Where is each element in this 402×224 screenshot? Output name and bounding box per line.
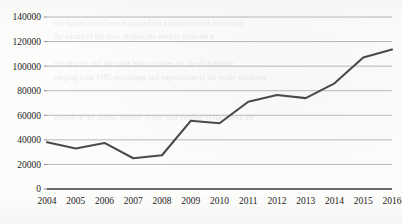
gridlines-group [47,17,392,164]
y-axis-tick-label: 100000 [13,62,42,72]
y-axis-tick-label: 0 [36,184,41,194]
x-axis-tick-label: 2014 [325,196,344,206]
x-axis-tick-label: 2011 [239,196,258,206]
x-axis-tick-label: 2005 [66,196,85,206]
x-axis-tick-label: 2013 [296,196,315,206]
x-axis-tick-label: 2010 [210,196,229,206]
x-axis-tick-label: 2007 [124,196,143,206]
y-axis-tick-label: 60000 [17,111,41,121]
y-axis-tick-labels-group: 020000400006000080000100000120000140000 [13,12,42,194]
x-axis-tick-labels-group: 2004200520062007200820092010201120122013… [38,196,402,206]
line-chart: 020000400006000080000100000120000140000 … [0,0,402,224]
x-axis-tick-label: 2009 [181,196,200,206]
x-axis-tick-label: 2006 [95,196,114,206]
x-axis-tick-label: 2012 [268,196,287,206]
y-tick-marks-group [44,17,47,189]
y-axis-tick-label: 20000 [17,160,41,170]
y-axis-tick-label: 80000 [17,86,41,96]
y-axis-tick-label: 40000 [17,135,41,145]
x-axis-tick-label: 2008 [153,196,172,206]
chart-canvas: 020000400006000080000100000120000140000 … [0,0,402,224]
y-axis-tick-label: 120000 [13,37,42,47]
x-axis-tick-label: 2004 [38,196,57,206]
x-axis-tick-label: 2016 [383,196,402,206]
x-axis-tick-label: 2015 [354,196,373,206]
y-axis-tick-label: 140000 [13,12,42,22]
